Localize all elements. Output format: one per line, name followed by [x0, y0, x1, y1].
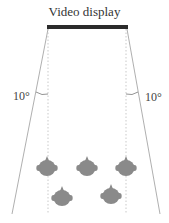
right-angle-arc — [126, 92, 138, 95]
right-angle-label: 10° — [145, 90, 162, 105]
viewer-head-icon — [100, 184, 121, 204]
viewer-head-icon — [36, 156, 57, 176]
viewing-angle-diagram — [0, 0, 169, 223]
left-angle-label: 10° — [13, 89, 30, 104]
right-viewing-boundary-line — [127, 29, 160, 214]
left-viewing-boundary-line — [12, 29, 48, 214]
viewer-head-icon — [115, 156, 136, 176]
video-display-bar — [47, 25, 128, 29]
left-angle-arc — [36, 92, 48, 95]
viewer-head-icon — [51, 186, 72, 206]
viewer-head-icon — [76, 156, 97, 176]
